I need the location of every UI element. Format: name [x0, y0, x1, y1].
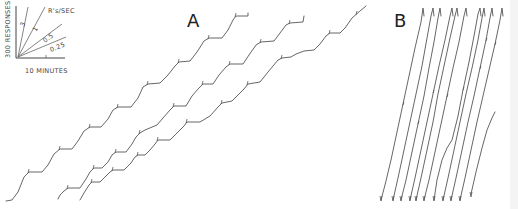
panel-label-a: A: [187, 10, 200, 31]
x-axis-label: 10 MINUTES: [25, 67, 68, 75]
panel-a-record-2: [58, 16, 304, 199]
panel-a-record-1: [6, 13, 248, 201]
page-edge: [510, 0, 518, 209]
rate-label-0-25: 0.25: [49, 41, 67, 54]
rate-line-1: [18, 7, 45, 57]
rate-label-1: 1: [31, 25, 40, 33]
rate-line-3: [18, 7, 28, 57]
figure: 300 RESPONSES 10 MINUTES R's/SEC 3 1 0.5…: [0, 0, 518, 209]
rate-label-3: 3: [18, 21, 27, 28]
rate-inset: 300 RESPONSES 10 MINUTES R's/SEC 3 1 0.5…: [4, 1, 75, 75]
panel-a-pips: [28, 11, 357, 189]
rate-title: R's/SEC: [48, 7, 75, 15]
y-axis-label: 300 RESPONSES: [4, 1, 12, 58]
panel-label-b: B: [394, 10, 406, 31]
panel-a-record-3: [80, 6, 366, 200]
panel-b-record: [380, 8, 503, 201]
